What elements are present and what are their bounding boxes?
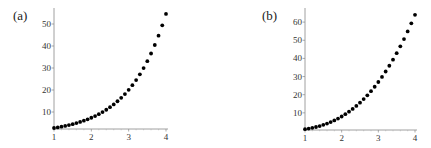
data-point bbox=[325, 122, 329, 126]
data-point bbox=[336, 117, 340, 121]
x-tick-label: 4 bbox=[413, 133, 418, 143]
y-tick-label: 30 bbox=[293, 72, 303, 82]
data-point bbox=[314, 125, 318, 129]
data-point bbox=[93, 114, 97, 118]
data-point bbox=[60, 125, 64, 129]
data-point bbox=[347, 110, 351, 114]
data-point bbox=[134, 78, 138, 82]
data-point bbox=[321, 123, 325, 127]
data-point bbox=[303, 127, 307, 131]
data-point bbox=[373, 85, 377, 89]
data-point bbox=[340, 115, 344, 119]
data-point bbox=[391, 58, 395, 62]
data-point bbox=[56, 126, 60, 130]
y-tick-label: 20 bbox=[293, 90, 303, 100]
data-point bbox=[395, 51, 399, 55]
data-point bbox=[119, 96, 123, 100]
y-tick-label: 60 bbox=[293, 17, 303, 27]
data-point bbox=[52, 126, 56, 130]
data-point bbox=[101, 110, 105, 114]
data-point bbox=[67, 123, 71, 127]
data-point bbox=[343, 112, 347, 116]
data-point bbox=[97, 112, 101, 116]
data-point bbox=[310, 126, 314, 130]
data-point bbox=[409, 21, 413, 25]
data-point bbox=[406, 30, 410, 34]
data-point bbox=[369, 89, 373, 93]
data-point bbox=[78, 120, 82, 124]
x-tick-label: 3 bbox=[376, 133, 381, 143]
data-point bbox=[104, 108, 108, 112]
data-point bbox=[82, 119, 86, 123]
y-tick-label: 10 bbox=[293, 108, 303, 118]
data-point bbox=[307, 127, 311, 131]
data-point bbox=[402, 37, 406, 41]
data-point bbox=[387, 64, 391, 68]
y-tick-label: 40 bbox=[293, 53, 303, 63]
data-point bbox=[116, 99, 120, 103]
data-point bbox=[108, 105, 112, 109]
y-tick-label: 10 bbox=[42, 107, 52, 117]
data-point bbox=[376, 80, 380, 84]
data-point bbox=[75, 121, 79, 125]
data-point bbox=[164, 12, 168, 16]
x-tick-label: 4 bbox=[164, 132, 169, 142]
chart-b-cubic: 1234102030405060 bbox=[293, 8, 418, 143]
x-tick-label: 2 bbox=[89, 132, 94, 142]
x-tick-label: 1 bbox=[52, 132, 57, 142]
data-point bbox=[71, 122, 75, 126]
data-point bbox=[380, 75, 384, 79]
y-tick-label: 20 bbox=[42, 85, 52, 95]
data-point bbox=[398, 44, 402, 48]
data-point bbox=[127, 88, 131, 92]
y-tick-label: 50 bbox=[293, 35, 303, 45]
y-tick-label: 40 bbox=[42, 41, 52, 51]
data-point bbox=[413, 13, 417, 17]
y-tick-label: 30 bbox=[42, 63, 52, 73]
data-point bbox=[329, 120, 333, 124]
x-tick-label: 1 bbox=[303, 133, 308, 143]
scatter-plots: 12341020304050 1234102030405060 bbox=[0, 0, 431, 148]
data-point bbox=[89, 116, 93, 120]
x-tick-label: 3 bbox=[126, 132, 131, 142]
data-point bbox=[384, 70, 388, 74]
data-point bbox=[157, 34, 161, 38]
data-point bbox=[123, 92, 127, 96]
data-point bbox=[153, 43, 157, 47]
x-tick-label: 2 bbox=[339, 133, 344, 143]
chart-a-exponential: 12341020304050 bbox=[42, 8, 169, 142]
data-point bbox=[145, 59, 149, 63]
data-point bbox=[318, 124, 322, 128]
data-point bbox=[358, 101, 362, 105]
data-point bbox=[63, 124, 67, 128]
data-point bbox=[332, 119, 336, 123]
data-point bbox=[86, 117, 90, 121]
data-point bbox=[351, 107, 355, 111]
data-point bbox=[138, 72, 142, 76]
data-point bbox=[149, 52, 153, 56]
data-point bbox=[160, 23, 164, 27]
data-point bbox=[365, 93, 369, 97]
data-point bbox=[142, 66, 146, 70]
data-point bbox=[354, 104, 358, 108]
y-tick-label: 50 bbox=[42, 19, 52, 29]
data-point bbox=[362, 97, 366, 101]
data-point bbox=[112, 102, 116, 106]
data-point bbox=[131, 83, 135, 87]
